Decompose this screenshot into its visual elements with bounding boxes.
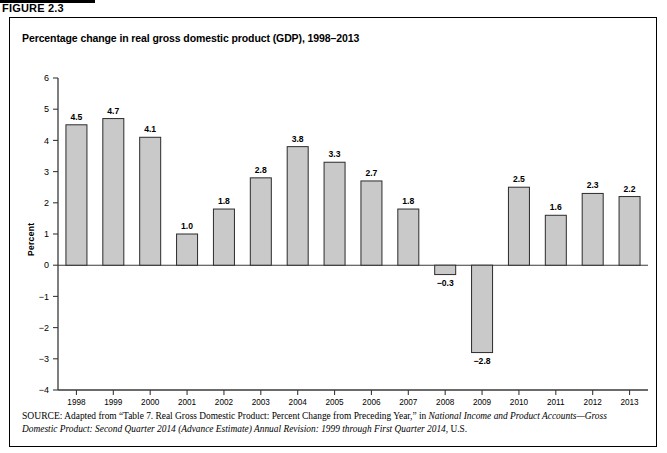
bar bbox=[103, 119, 124, 266]
y-tick-label: 0 bbox=[44, 260, 49, 270]
bar-value-label: 2.3 bbox=[587, 180, 599, 190]
bar bbox=[619, 197, 640, 266]
x-tick-label: 1998 bbox=[67, 398, 86, 405]
source-prefix: SOURCE bbox=[22, 410, 60, 421]
plot-area: Percent 6543210−1−2−3−44.519984.719994.1… bbox=[10, 60, 656, 405]
x-tick-label: 2005 bbox=[325, 398, 344, 405]
bar-value-label: 3.3 bbox=[329, 149, 341, 159]
bar-value-label: 4.5 bbox=[70, 112, 82, 122]
bar bbox=[250, 178, 271, 265]
bar-value-label: 2.7 bbox=[365, 168, 377, 178]
y-tick-label: 3 bbox=[44, 167, 49, 177]
x-tick-label: 2007 bbox=[399, 398, 418, 405]
x-tick-label: 2011 bbox=[547, 398, 565, 405]
y-tick-label: −4 bbox=[39, 385, 49, 395]
x-tick-label: 2002 bbox=[215, 398, 234, 405]
y-tick-label: 1 bbox=[44, 229, 49, 239]
source-note: SOURCE: Adapted from “Table 7. Real Gros… bbox=[22, 409, 644, 437]
y-tick-label: 4 bbox=[44, 136, 49, 146]
bar-value-label: 2.5 bbox=[513, 174, 525, 184]
bar-value-label: 1.8 bbox=[218, 196, 230, 206]
x-tick-label: 2009 bbox=[473, 398, 492, 405]
bar-value-label: 2.2 bbox=[624, 184, 636, 194]
x-tick-label: 2004 bbox=[289, 398, 308, 405]
x-tick-label: 2012 bbox=[584, 398, 603, 405]
y-tick-label: −1 bbox=[39, 292, 49, 302]
bar-value-label: 3.8 bbox=[292, 134, 304, 144]
bar-value-label: −0.3 bbox=[437, 278, 454, 288]
x-tick-label: 2000 bbox=[141, 398, 160, 405]
x-tick-label: 2013 bbox=[620, 398, 639, 405]
bar-value-label: 4.7 bbox=[107, 106, 119, 116]
figure-number-label: FIGURE 2.3 bbox=[2, 2, 64, 14]
x-tick-label: 2008 bbox=[436, 398, 455, 405]
x-tick-label: 2006 bbox=[362, 398, 381, 405]
bar-value-label: 4.1 bbox=[144, 124, 156, 134]
bar bbox=[287, 147, 308, 266]
x-tick-label: 2003 bbox=[252, 398, 271, 405]
bar bbox=[177, 234, 198, 265]
bar bbox=[140, 137, 161, 265]
y-tick-label: −3 bbox=[39, 354, 49, 364]
bar bbox=[66, 125, 87, 265]
source-text-tail: , U.S. bbox=[446, 424, 467, 434]
bar-value-label: −2.8 bbox=[474, 356, 491, 366]
bar bbox=[508, 187, 529, 265]
y-tick-label: 6 bbox=[44, 73, 49, 83]
bar bbox=[324, 162, 345, 265]
y-tick-label: 5 bbox=[44, 104, 49, 114]
bar bbox=[213, 209, 234, 265]
y-tick-label: 2 bbox=[44, 198, 49, 208]
bar bbox=[545, 215, 566, 265]
source-text-lead: : Adapted from “Table 7. Real Gross Dome… bbox=[60, 411, 429, 421]
bar-chart: 6543210−1−2−3−44.519984.719994.120001.02… bbox=[10, 60, 656, 405]
x-tick-label: 1999 bbox=[104, 398, 123, 405]
bar-value-label: 1.0 bbox=[181, 221, 193, 231]
x-tick-label: 2001 bbox=[178, 398, 197, 405]
bar-value-label: 1.6 bbox=[550, 202, 562, 212]
figure-box: Percentage change in real gross domestic… bbox=[9, 17, 657, 447]
y-tick-label: −2 bbox=[39, 323, 49, 333]
bar bbox=[582, 193, 603, 265]
bar bbox=[435, 265, 456, 274]
bar bbox=[472, 265, 493, 352]
bar-value-label: 1.8 bbox=[402, 196, 414, 206]
bar-value-label: 2.8 bbox=[255, 165, 267, 175]
chart-title: Percentage change in real gross domestic… bbox=[22, 32, 359, 44]
bar bbox=[361, 181, 382, 265]
bar bbox=[398, 209, 419, 265]
x-tick-label: 2010 bbox=[510, 398, 529, 405]
